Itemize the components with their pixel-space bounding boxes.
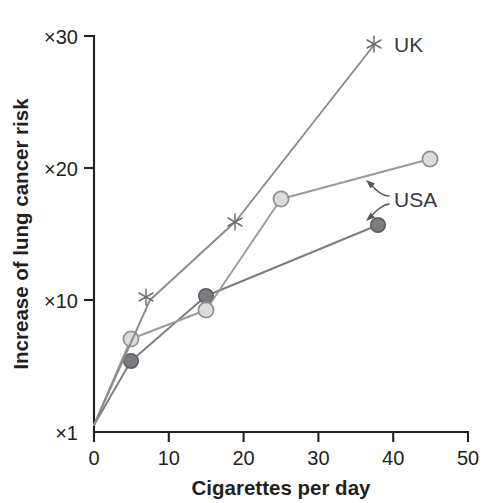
y-axis-title: Increase of lung cancer risk [9, 98, 32, 370]
chart-canvas: ×30 ×20 ×10 ×1 0 10 20 30 40 50 Cigarett… [0, 0, 493, 503]
axis-lines [94, 36, 468, 432]
x-tick-label-50: 50 [457, 447, 479, 469]
x-tick-label-0: 0 [88, 447, 99, 469]
x-axis-title: Cigarettes per day [192, 476, 371, 499]
series-label-uk: UK [394, 33, 423, 56]
asterisk-marker [139, 289, 153, 305]
y-axis-tick-labels: ×30 ×20 ×10 ×1 [44, 26, 78, 444]
y-tick-label-1: ×1 [55, 422, 78, 444]
x-tick-label-20: 20 [232, 447, 254, 469]
y-tick-label-10: ×10 [44, 290, 78, 312]
series-usa-lower-line [94, 225, 378, 425]
usa-callout: USA [366, 180, 437, 221]
series-usa-lower [94, 218, 385, 425]
x-tick-label-30: 30 [307, 447, 329, 469]
x-axis-tick-labels: 0 10 20 30 40 50 [88, 447, 479, 469]
y-tick-label-30: ×30 [44, 26, 78, 48]
series-label-usa: USA [394, 188, 437, 211]
y-tick-label-20: ×20 [44, 158, 78, 180]
series-usa-upper-line [94, 159, 430, 425]
lung-cancer-risk-chart: ×30 ×20 ×10 ×1 0 10 20 30 40 50 Cigarett… [0, 0, 493, 503]
data-point-marker [198, 302, 213, 317]
x-tick-label-10: 10 [158, 447, 180, 469]
data-point-marker [371, 218, 385, 232]
asterisk-marker [367, 36, 381, 52]
axes-group [84, 36, 468, 442]
data-point-marker [422, 151, 437, 166]
series-usa-upper [94, 151, 438, 425]
series-uk [94, 36, 381, 425]
series-uk-line [94, 45, 374, 425]
x-tick-label-40: 40 [382, 447, 404, 469]
data-point-marker [273, 191, 288, 206]
